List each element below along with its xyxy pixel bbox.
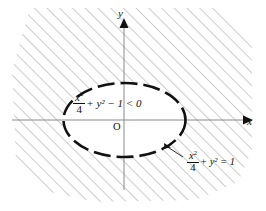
figure-canvas: x2 4 + y² − 1 < 0 x2 4 + y² = 1 y x O <box>0 0 266 211</box>
origin-label: O <box>113 122 121 133</box>
inequality-fraction: x2 4 <box>73 92 85 115</box>
interior-inequality-label: x2 4 + y² − 1 < 0 <box>72 92 142 115</box>
equation-fraction: x2 4 <box>187 151 199 173</box>
ellipse-equation-label: x2 4 + y² = 1 <box>186 151 235 173</box>
y-axis-label: y <box>118 8 123 19</box>
equation-remainder: + y² = 1 <box>200 157 235 168</box>
inequality-remainder: + y² − 1 < 0 <box>86 98 141 109</box>
inequality-denominator: 4 <box>73 104 85 115</box>
equation-denominator: 4 <box>187 163 199 174</box>
equation-numerator: x2 <box>187 151 199 163</box>
x-axis-label: x <box>247 116 252 127</box>
